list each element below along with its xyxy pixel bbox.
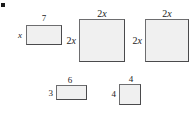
rect-1 (26, 25, 62, 45)
top-label-variable: x (102, 8, 106, 19)
geometry-figure: 7x2x2x2x2x6344 (0, 0, 192, 113)
rect-4-top-label: 6 (68, 76, 73, 85)
rect-2-top-label: 2x (97, 9, 106, 19)
rect-3-left-label: 2x (133, 36, 142, 46)
rect-5-left-label: 4 (112, 90, 117, 99)
corner-marker-icon (1, 3, 5, 7)
rect-4 (56, 85, 87, 100)
top-label-variable: x (167, 8, 171, 19)
rect-3-top-label: 2x (162, 9, 171, 19)
rect-1-top-label: 7 (42, 14, 47, 23)
rect-3 (145, 19, 189, 62)
rect-2-left-label: 2x (67, 36, 76, 46)
rect-2 (79, 19, 125, 62)
rect-5 (119, 84, 141, 105)
left-label-variable: x (138, 35, 142, 46)
rect-1-left-label: x (18, 31, 22, 40)
left-label-variable: x (72, 35, 76, 46)
rect-4-left-label: 3 (49, 89, 54, 98)
rect-5-top-label: 4 (129, 75, 134, 84)
